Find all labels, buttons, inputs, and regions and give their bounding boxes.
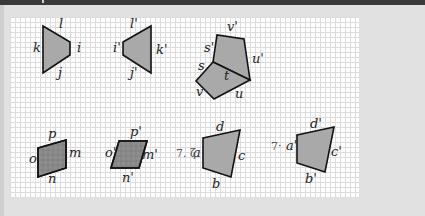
vertex-label: b'	[305, 171, 317, 186]
vertex-label: p'	[130, 124, 142, 139]
annotation-label: 7. ζ	[176, 147, 196, 160]
vertex-label: j'	[127, 65, 138, 80]
vertex-label: k'	[156, 42, 167, 57]
vertex-label: c'	[331, 144, 342, 159]
vertex-label: p	[48, 126, 57, 141]
vertex-label: n'	[122, 170, 134, 185]
vertex-label: u	[235, 86, 243, 101]
vertex-label: o'	[105, 145, 116, 160]
shape-quad-7: d'c'b'a'	[286, 116, 342, 186]
vertex-label: n	[48, 171, 56, 186]
shape-trapezoid-1: lijk	[33, 16, 81, 80]
vertex-label: m	[69, 145, 81, 160]
annotation-label: 7·	[271, 140, 282, 153]
vertex-label: k	[33, 40, 41, 55]
vertex-label: b	[212, 176, 220, 191]
shape-quad-6: dcba	[193, 119, 246, 191]
polygon-quad-7	[297, 127, 334, 172]
vertex-label: v'	[227, 19, 238, 34]
vertex-label: j	[55, 65, 62, 80]
vertex-label: l'	[130, 16, 138, 31]
vertex-label: c	[238, 148, 246, 163]
vertex-label: v	[196, 84, 204, 99]
vertex-label: d'	[310, 116, 322, 131]
vertex-label: t	[224, 68, 230, 83]
vertex-label: s	[198, 58, 205, 73]
vertex-label: l	[59, 16, 63, 31]
vertex-label: i	[77, 40, 81, 55]
polygon-quad-6	[203, 130, 240, 177]
vertex-label: a'	[286, 138, 297, 153]
shape-trapezoid-2: l'k'j'i'	[113, 16, 167, 80]
shape-parallelogram-4: pmno	[29, 126, 81, 186]
vertex-label: d	[216, 119, 224, 134]
vertex-label: s'	[204, 40, 214, 55]
vertex-label: u'	[252, 51, 264, 66]
polygon-trapezoid-1	[43, 26, 70, 73]
shape-parallelogram-5: p'm'n'o'	[105, 124, 158, 185]
vertex-label: i'	[113, 40, 121, 55]
vertex-label: o	[29, 151, 37, 166]
vertex-label: m'	[142, 147, 158, 162]
geometry-figure: lijkl'k'j'i'v's'u'stvupmnop'm'n'o'dcbad'…	[0, 0, 425, 216]
